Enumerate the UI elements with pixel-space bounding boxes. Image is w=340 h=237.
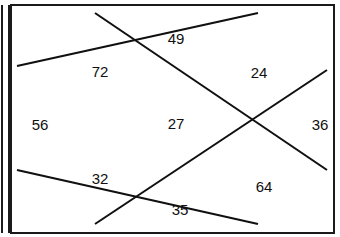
lattice-figure: 497224562736326435 [0,0,340,237]
label-56: 56 [32,116,49,133]
label-72: 72 [92,63,109,80]
label-32: 32 [92,170,109,187]
label-49: 49 [168,30,185,47]
label-27: 27 [168,115,185,132]
label-64: 64 [256,178,273,195]
label-36: 36 [312,116,329,133]
label-24: 24 [251,64,268,81]
lattice-canvas: 497224562736326435 [0,0,340,237]
label-35: 35 [172,201,189,218]
